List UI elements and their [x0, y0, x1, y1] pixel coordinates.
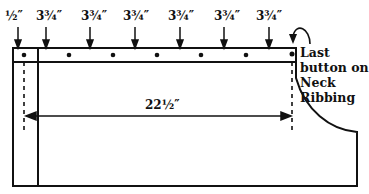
- button-dot: [199, 53, 204, 58]
- last-button-note: Last button on Neck Ribbing: [300, 45, 369, 105]
- button-dot: [111, 53, 116, 58]
- spacing-label-1: 3¾″: [36, 10, 62, 22]
- spacing-label-3: 3¾″: [123, 10, 149, 22]
- button-dot: [67, 53, 72, 58]
- last-button-dot: [290, 52, 295, 57]
- spacing-label-6: 3¾″: [256, 10, 282, 22]
- spacing-label-4: 3¾″: [168, 10, 194, 22]
- note-line: button on: [300, 60, 369, 75]
- button-dot: [155, 53, 160, 58]
- spacing-label-0: ½″: [5, 10, 23, 22]
- spacing-label-2: 3¾″: [81, 10, 107, 22]
- spacing-label-5: 3¾″: [214, 10, 240, 22]
- width-label: 22½″: [145, 99, 180, 111]
- button-dot: [22, 53, 27, 58]
- button-dot: [244, 53, 249, 58]
- note-line: Last: [300, 45, 369, 60]
- note-line: Neck: [300, 75, 369, 90]
- note-line: Ribbing: [300, 90, 369, 105]
